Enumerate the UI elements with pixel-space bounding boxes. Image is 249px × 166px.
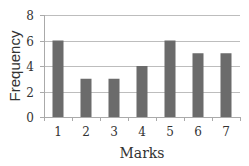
bar-chart: 02468 1234567 Marks Frequency: [0, 0, 249, 166]
bar: [137, 66, 148, 117]
x-tick-label: 6: [194, 125, 202, 139]
y-tick-label: 6: [26, 35, 34, 49]
x-tick-label: 3: [110, 125, 118, 139]
x-tick-label: 5: [166, 125, 174, 139]
y-tick-label: 2: [26, 86, 34, 100]
bars: [53, 41, 232, 118]
bar: [53, 41, 64, 118]
x-axis-title: Marks: [119, 145, 164, 161]
bar: [193, 53, 204, 117]
x-tick-label: 1: [54, 125, 62, 139]
y-axis-title: Frequency: [6, 30, 23, 101]
x-tick-label: 4: [138, 125, 146, 139]
x-tick-labels: 1234567: [54, 125, 230, 139]
bar: [221, 53, 232, 117]
y-tick-label: 8: [26, 9, 34, 23]
y-tick-labels: 02468: [26, 9, 34, 125]
x-tick-label: 2: [82, 125, 90, 139]
y-tick-label: 0: [26, 111, 34, 125]
bar: [165, 41, 176, 118]
bar: [109, 79, 120, 117]
y-tick-label: 4: [26, 60, 34, 74]
x-tick-label: 7: [222, 125, 230, 139]
bar: [81, 79, 92, 117]
